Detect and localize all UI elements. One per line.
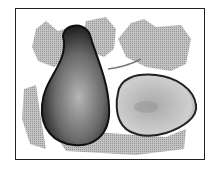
halved-pear (117, 75, 197, 136)
illustration-frame (15, 8, 205, 160)
pear-illustration (16, 9, 205, 160)
